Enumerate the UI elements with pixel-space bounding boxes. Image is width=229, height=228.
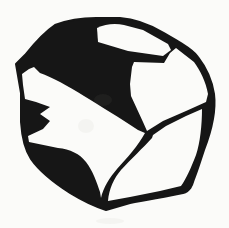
scan-smudge	[94, 94, 112, 106]
rock-drawing-canvas	[0, 0, 229, 228]
scan-smudge	[96, 218, 124, 224]
rock-illustration	[0, 0, 229, 228]
scan-smudge	[78, 119, 94, 133]
